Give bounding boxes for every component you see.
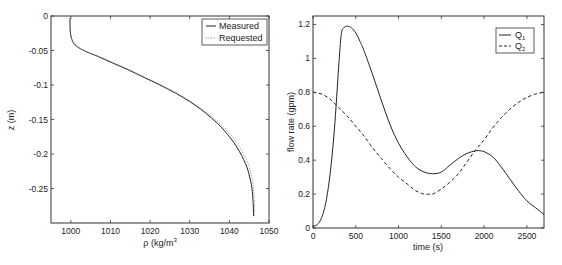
density-series-layer [70, 18, 254, 216]
density-x-tick-label: 1000 [61, 226, 80, 236]
flow-legend: Q1 Q2 [496, 28, 534, 53]
density-series-requested-line [70, 18, 254, 216]
density-x-tick-label: 1030 [180, 226, 199, 236]
flow-x-tick-label: 0 [311, 231, 316, 241]
density-y-tick-label: 0 [43, 11, 48, 21]
flow-x-tick-label: 1000 [389, 231, 408, 241]
legend-measured-label: Measured [219, 21, 259, 31]
flow-x-tick-label: 2500 [517, 231, 536, 241]
flow-y-tick-label: 1.2 [298, 19, 310, 29]
density-x-tick-label: 1010 [101, 226, 120, 236]
legend-requested-label: Requested [219, 33, 263, 43]
density-y-tick-label: -0.1 [33, 80, 48, 90]
flow-y-tick-label: 1 [305, 53, 310, 63]
flow-y-tick-label: 0.6 [298, 121, 310, 131]
flow-x-tick-label: 1500 [432, 231, 451, 241]
flow-series-layer [313, 26, 544, 226]
flow-y-tick-label: 0.2 [298, 189, 310, 199]
density-x-axis-label: ρ (kg/m3 [143, 237, 177, 248]
density-y-tick-label: -0.2 [33, 149, 48, 159]
density-y-axis-label: z (m) [6, 110, 16, 131]
flow-y-axis-label: flow rate (gpm) [286, 92, 296, 152]
flow-y-tick-label: 0.4 [298, 155, 310, 165]
density-plot-frame [51, 16, 269, 223]
density-y-tick-label: -0.15 [29, 115, 49, 125]
density-x-tick-label: 1050 [260, 226, 279, 236]
flow-x-tick-label: 2000 [475, 231, 494, 241]
flow-series-q2-line [313, 92, 544, 194]
density-y-tick-label: -0.25 [29, 184, 49, 194]
density-series-measured-line [70, 18, 254, 216]
density-profile-chart: 1000101010201030104010500-0.05-0.1-0.15-… [6, 11, 279, 248]
density-x-tick-label: 1040 [220, 226, 239, 236]
density-legend: Measured Requested [202, 19, 267, 45]
density-x-tick-label: 1020 [141, 226, 160, 236]
flow-y-tick-label: 0 [305, 223, 310, 233]
flow-x-axis-label: time (s) [413, 242, 443, 252]
figure: 1000101010201030104010500-0.05-0.1-0.15-… [0, 0, 562, 265]
flow-rate-chart: 0500100015002000250000.20.40.60.811.2 ti… [286, 16, 544, 252]
flow-x-tick-label: 500 [349, 231, 363, 241]
flow-y-tick-label: 0.8 [298, 87, 310, 97]
density-y-tick-label: -0.05 [29, 46, 49, 56]
flow-series-q1-line [313, 26, 544, 226]
